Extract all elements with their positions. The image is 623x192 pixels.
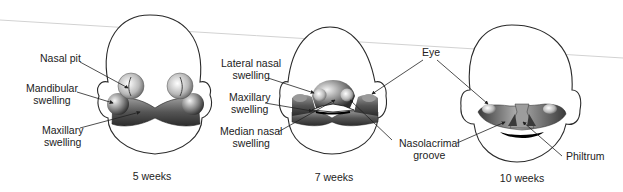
lateral-nasal-left-7w [314, 89, 327, 102]
label-naso-line2: groove [399, 149, 460, 161]
label-median-line2: swelling [220, 137, 282, 149]
label-mandibular-line2: swelling [26, 94, 78, 106]
diagram-canvas [0, 0, 623, 192]
caption-5-weeks: 5 weeks [112, 170, 192, 182]
head-outline-10w [461, 25, 581, 162]
facial-development-diagram: Nasal pit Mandibular swelling Maxillary … [0, 0, 623, 192]
label-maxillary-swelling-7w: Maxillary swelling [229, 91, 270, 115]
label-median-line1: Median nasal [220, 125, 282, 137]
label-naso-line1: Nasolacrimal [399, 137, 460, 149]
label-mandibular-line1: Mandibular [26, 82, 78, 94]
label-maxillary7-line1: Maxillary [229, 91, 270, 103]
label-maxillary5-line2: swelling [42, 136, 83, 148]
leader-eye-7w [372, 60, 423, 94]
label-maxillary5-line1: Maxillary [42, 124, 83, 136]
panel-7-weeks [265, 27, 387, 154]
label-nasal-pit: Nasal pit [40, 52, 81, 64]
label-median-nasal-swelling: Median nasal swelling [220, 125, 282, 149]
label-lateral-line1: Lateral nasal [221, 57, 281, 69]
panel-5-weeks [77, 15, 212, 154]
label-maxillary7-line2: swelling [229, 103, 270, 115]
label-maxillary-swelling-5w: Maxillary swelling [42, 124, 83, 148]
label-nasolacrimal-groove: Nasolacrimal groove [399, 137, 460, 161]
caption-7-weeks: 7 weeks [294, 171, 374, 183]
eye-right-10w [543, 104, 557, 114]
label-eye: Eye [422, 46, 440, 58]
label-mandibular-swelling: Mandibular swelling [26, 82, 78, 106]
label-philtrum: Philtrum [566, 150, 605, 162]
eye-left-10w [482, 104, 496, 114]
caption-10-weeks: 10 weeks [482, 172, 562, 184]
label-lateral-nasal-swelling: Lateral nasal swelling [221, 57, 281, 81]
head-outline-5w [98, 15, 212, 154]
label-lateral-line2: swelling [221, 69, 281, 81]
lateral-nasal-right-7w [341, 89, 354, 102]
